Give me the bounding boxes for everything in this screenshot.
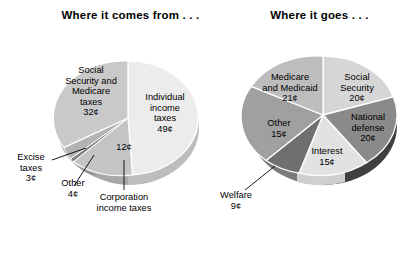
slice-label-medicare-and-medicaid: Medicare and Medicaid 21¢ — [249, 72, 331, 104]
callout-label-other-left: Other 4¢ — [52, 178, 94, 199]
slice-value-corporation-income-taxes: 12¢ — [106, 142, 142, 153]
two-pie-chart-figure: Where it comes from . . . — [0, 0, 418, 254]
slice-label-interest: Interest 15¢ — [301, 146, 353, 167]
pie-panel-where-it-comes-from: Where it comes from . . . — [0, 0, 209, 254]
slice-label-other-right: Other 15¢ — [257, 118, 301, 139]
callout-label-welfare: Welfare 9¢ — [211, 190, 261, 211]
callout-label-excise-taxes: Excise taxes 3¢ — [8, 152, 54, 184]
slice-label-individual-income-taxes: Individual income taxes 49¢ — [134, 92, 196, 134]
slice-label-national-defense: National defense 20¢ — [339, 112, 397, 144]
leader-line-welfare — [245, 166, 275, 190]
pie-panel-where-it-goes: Where it goes . . . Me — [209, 0, 418, 254]
slice-label-social-security-and-medicare-taxes: Social Security and Medicare taxes 32¢ — [51, 65, 131, 118]
slice-label-social-security: Social Security 20¢ — [329, 72, 385, 104]
